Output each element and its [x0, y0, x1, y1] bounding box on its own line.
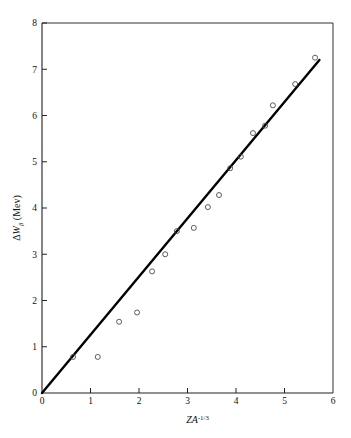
data-point: [163, 252, 168, 257]
data-point: [95, 354, 100, 359]
y-axis-tick-label: 1: [32, 342, 37, 352]
data-point: [205, 205, 210, 210]
x-axis-tick-label: 0: [40, 396, 45, 406]
data-point: [270, 103, 275, 108]
y-axis-tick-label: 7: [32, 65, 37, 75]
data-point: [117, 319, 122, 324]
data-point: [217, 193, 222, 198]
data-point: [135, 310, 140, 315]
data-point: [150, 269, 155, 274]
y-axis-title-group: ΔWβ (Mev): [11, 195, 24, 241]
data-point: [293, 82, 298, 87]
x-axis-tick-label: 4: [234, 396, 239, 406]
y-axis-tick-label: 0: [32, 388, 37, 398]
y-axis-tick-label: 4: [32, 203, 37, 213]
scatter-plot: 0123456012345678ZA-1/3ΔWβ (Mev): [0, 0, 351, 438]
x-axis-tick-label: 6: [331, 396, 336, 406]
y-axis-title-unit: (Mev): [11, 195, 23, 223]
plot-frame: [42, 23, 333, 393]
x-axis-tick-label: 5: [282, 396, 287, 406]
x-axis-tick-label: 1: [88, 396, 93, 406]
y-axis-title: ΔWβ (Mev): [11, 195, 24, 241]
x-axis-tick-label: 2: [137, 396, 142, 406]
y-axis-tick-label: 5: [32, 157, 37, 167]
y-axis-tick-label: 2: [32, 296, 37, 306]
fit-line: [42, 60, 319, 393]
figure-container: 0123456012345678ZA-1/3ΔWβ (Mev): [0, 0, 351, 438]
x-axis-title-exponent: -1/3: [198, 414, 210, 421]
y-axis-tick-label: 8: [32, 18, 37, 28]
data-point: [250, 131, 255, 136]
data-point: [191, 225, 196, 230]
x-axis-title: ZA-1/3: [186, 414, 209, 425]
plot-axes: [42, 23, 333, 393]
y-axis-tick-label: 6: [32, 111, 37, 121]
x-axis-tick-label: 3: [185, 396, 190, 406]
data-point: [313, 55, 318, 60]
y-axis-tick-label: 3: [32, 250, 37, 260]
